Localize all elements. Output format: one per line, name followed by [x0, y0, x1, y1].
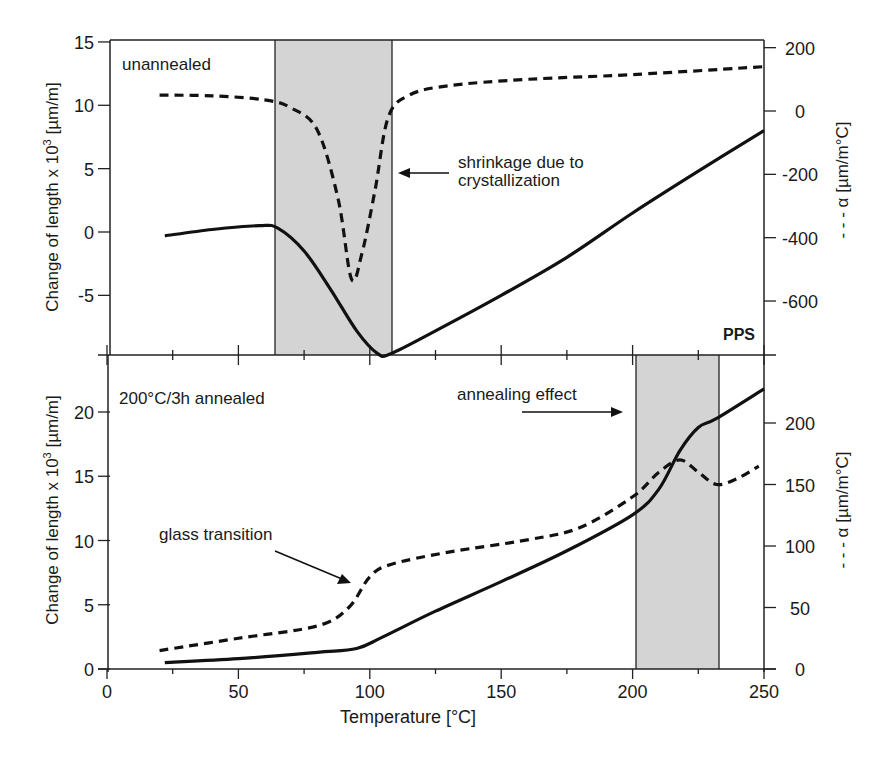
arrow-right-icon — [611, 407, 623, 417]
arrow-left-icon — [398, 168, 410, 178]
dilatometry-chart: 151050-52000-200-400-6002015105020015010… — [0, 0, 894, 762]
annealing-shaded-region — [636, 355, 719, 669]
shrinkage-annotation-line2: crystallization — [458, 171, 560, 190]
y2-tick-label: 200 — [785, 39, 815, 59]
glass-transition-annotation: glass transition — [159, 525, 272, 544]
y2-tick-label: -600 — [782, 292, 818, 312]
y2-tick-label: -400 — [782, 229, 818, 249]
arrow-down-right-icon — [337, 574, 351, 584]
x-axis-title: Temperature [°C] — [340, 707, 476, 727]
x-tick-label: 0 — [102, 682, 112, 702]
y2-tick-label: -200 — [782, 165, 818, 185]
top-panel-label: unannealed — [122, 55, 211, 74]
x-tick-label: 150 — [486, 682, 516, 702]
y2-tick-label: 100 — [785, 537, 815, 557]
y2-axis-title-top: - - - α [µm/m°C] — [833, 121, 852, 238]
material-label: PPS — [723, 326, 755, 343]
y2-tick-label: 200 — [785, 414, 815, 434]
y-tick-label: 0 — [84, 223, 94, 243]
bottom-panel-label: 200°C/3h annealed — [119, 389, 265, 408]
y2-axis-title-bottom: - - - α [µm/m°C] — [833, 451, 852, 568]
y2-tick-label: 0 — [795, 102, 805, 122]
y-tick-label: 15 — [74, 33, 94, 53]
x-tick-label: 200 — [618, 682, 648, 702]
x-tick-label: 250 — [749, 682, 779, 702]
y-axis-title-top: Change of length x 103 [µm/m] — [41, 82, 62, 312]
y-tick-label: 10 — [74, 96, 94, 116]
y2-tick-label: 0 — [795, 660, 805, 680]
top-panel-frame — [98, 40, 776, 355]
annealing-annotation: annealing effect — [457, 385, 577, 404]
y-tick-label: 5 — [84, 160, 94, 180]
y-tick-label: 15 — [74, 467, 94, 487]
y2-tick-label: 150 — [785, 476, 815, 496]
shrinkage-annotation-line1: shrinkage due to — [458, 153, 584, 172]
y-tick-label: 20 — [74, 403, 94, 423]
y-tick-label: 0 — [84, 660, 94, 680]
y-axis-title-bottom: Change of length x 103 [µm/m] — [41, 395, 62, 625]
x-tick-label: 50 — [228, 682, 248, 702]
y-tick-label: 10 — [74, 532, 94, 552]
y2-tick-label: 50 — [790, 599, 810, 619]
y-tick-label: 5 — [84, 596, 94, 616]
y-tick-label: -5 — [78, 286, 94, 306]
x-tick-label: 100 — [355, 682, 385, 702]
